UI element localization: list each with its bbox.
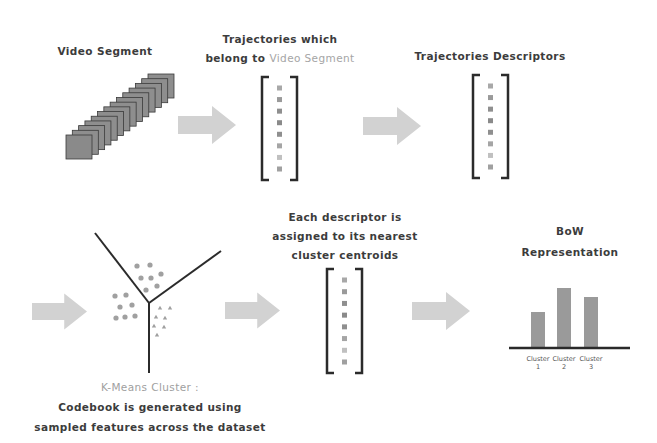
bow-category-text: Cluster	[549, 355, 579, 363]
arrow-icon-kmeans-to-assignment	[225, 292, 280, 328]
arrow-icon-descriptors-to-kmeans	[32, 293, 87, 329]
bow-category-number: 3	[576, 363, 606, 371]
arrow-icon-video-to-trajectories	[178, 106, 236, 144]
trajectories-title-line1: Trajectories which	[200, 33, 360, 45]
trajectories-title-highlight: Video Segment	[269, 52, 354, 64]
assignment-title-line2: assigned to its nearest	[260, 230, 430, 242]
bow-bar-chart	[509, 288, 630, 348]
video-frame-stack-icon	[66, 74, 174, 159]
kmeans-caption-line1: Codebook is generated using	[40, 401, 260, 413]
descriptor-vector-icon	[473, 75, 508, 178]
kmeans-caption-highlight: K-Means Cluster :	[80, 381, 220, 393]
kmeans-caption-line2: sampled features across the dataset	[30, 421, 270, 433]
descriptors-title: Trajectories Descriptors	[410, 50, 570, 62]
video-segment-title: Video Segment	[50, 45, 160, 57]
bow-title-line2: Representation	[500, 246, 640, 258]
assignment-title-line3: cluster centroids	[270, 249, 420, 261]
bow-category-label-3: Cluster 3	[576, 355, 606, 371]
bow-title-line1: BoW	[520, 225, 620, 237]
bow-category-label-2: Cluster 2	[549, 355, 579, 371]
arrow-icon-assignment-to-bow	[412, 292, 470, 330]
assignment-title-line1: Each descriptor is	[270, 211, 420, 223]
arrow-icon-trajectories-to-descriptors	[363, 107, 421, 145]
trajectories-title-line2: belong to Video Segment	[190, 52, 370, 64]
bow-category-number: 2	[549, 363, 579, 371]
kmeans-cluster-icon	[95, 233, 221, 373]
assignment-vector-icon	[327, 269, 362, 373]
bow-category-text: Cluster	[576, 355, 606, 363]
trajectory-vector-icon	[262, 77, 297, 180]
trajectories-title-prefix: belong to	[205, 52, 269, 64]
